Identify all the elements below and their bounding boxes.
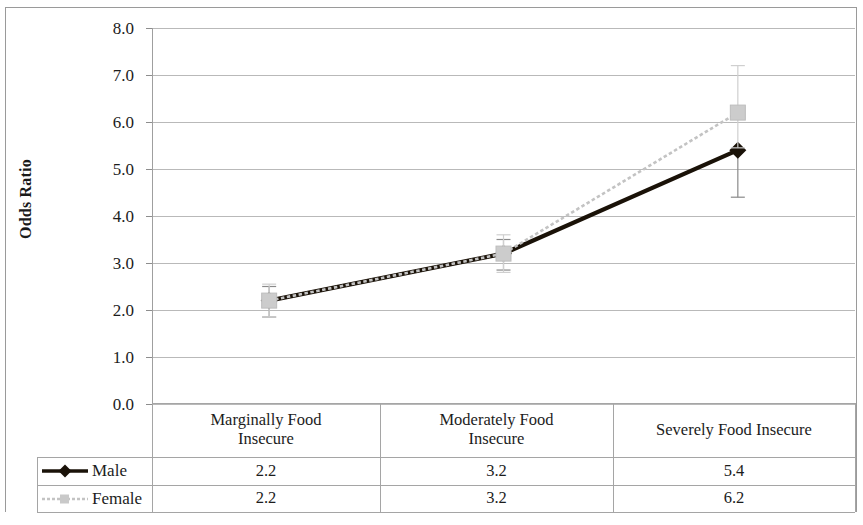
table-header-moderately-line2: Insecure xyxy=(469,429,525,448)
table-cell-male-moderately: 3.2 xyxy=(380,457,613,485)
data-table: Marginally Food Insecure Moderately Food… xyxy=(37,403,855,512)
legend-swatch-male-diamond-line xyxy=(41,463,89,479)
table-cell-female-moderately: 3.2 xyxy=(380,485,613,512)
table-cell-male-severely: 5.4 xyxy=(613,457,855,485)
legend-label-male: Male xyxy=(91,461,127,481)
chart-figure: Odds Ratio 8.0 7.0 6.0 5.0 4.0 3.0 2.0 1… xyxy=(0,0,863,525)
table-header-severely: Severely Food Insecure xyxy=(613,403,855,457)
series-female xyxy=(262,66,746,317)
series-male xyxy=(261,142,747,317)
legend-item-female[interactable]: Female xyxy=(37,485,152,512)
legend-label-female: Female xyxy=(91,489,142,509)
legend-swatch-female-square-line xyxy=(41,491,89,507)
table-header-severely-line1: Severely Food Insecure xyxy=(656,421,812,440)
table-header-marginally-line1: Marginally Food xyxy=(210,410,321,429)
table-rule-bottom xyxy=(37,512,855,513)
table-header-moderately-line1: Moderately Food xyxy=(439,410,553,429)
table-cell-female-marginally: 2.2 xyxy=(152,485,380,512)
table-header-moderately: Moderately Food Insecure xyxy=(380,403,613,457)
table-cell-male-marginally: 2.2 xyxy=(152,457,380,485)
table-vrule-right xyxy=(855,403,856,512)
table-header-marginally: Marginally Food Insecure xyxy=(152,403,380,457)
legend-item-male[interactable]: Male xyxy=(37,457,152,485)
table-cell-female-severely: 6.2 xyxy=(613,485,855,512)
table-header-marginally-line2: Insecure xyxy=(238,429,294,448)
